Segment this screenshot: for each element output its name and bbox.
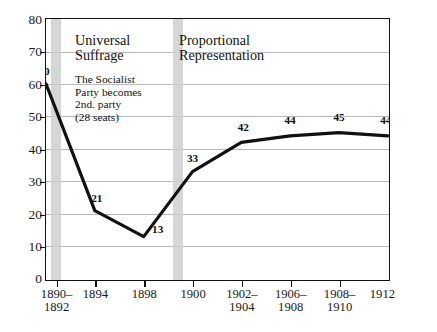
chart-root: 80706050403020100 Universal Suffrage The… bbox=[0, 0, 437, 332]
annotation-universal-suffrage-body: The Socialist Party becomes 2nd. party (… bbox=[75, 73, 142, 123]
x-axis-tick-label: 1912 bbox=[354, 288, 410, 301]
y-axis-tick-label: 10 bbox=[8, 240, 42, 254]
annotation-proportional-representation-title: Proportional Representation bbox=[179, 33, 264, 64]
x-axis-tick-label: 1898 bbox=[116, 288, 172, 301]
y-axis-tick-label: 80 bbox=[8, 13, 42, 27]
annotation-universal-suffrage-title: Universal Suffrage bbox=[75, 33, 130, 64]
data-point-label: 44 bbox=[278, 114, 302, 126]
x-axis-tick-label: 1902– 1904 bbox=[214, 288, 270, 315]
y-axis-tick-label: 40 bbox=[8, 143, 42, 157]
data-point-label: 21 bbox=[85, 192, 109, 204]
x-axis-tick-label: 1894 bbox=[67, 288, 123, 301]
y-axis-tick-label: 30 bbox=[8, 175, 42, 189]
x-axis-tick-label: 1906– 1908 bbox=[263, 288, 319, 315]
y-axis-tick-label: 50 bbox=[8, 110, 42, 124]
data-point-label: 44 bbox=[374, 114, 390, 126]
y-axis-tick-label: 20 bbox=[8, 208, 42, 222]
plot-area: Universal Suffrage The Socialist Party b… bbox=[45, 18, 390, 281]
data-point-label: 42 bbox=[231, 121, 255, 133]
y-axis-tick-label: 60 bbox=[8, 78, 42, 92]
data-point-label: 13 bbox=[146, 223, 170, 235]
x-axis-tick-label: 1900 bbox=[165, 288, 221, 301]
data-point-label: 45 bbox=[327, 111, 351, 123]
y-axis-tick-label: 0 bbox=[8, 272, 42, 286]
data-point-label: 60 bbox=[45, 65, 56, 77]
y-axis-tick-label: 70 bbox=[8, 45, 42, 59]
data-point-label: 33 bbox=[181, 152, 205, 164]
